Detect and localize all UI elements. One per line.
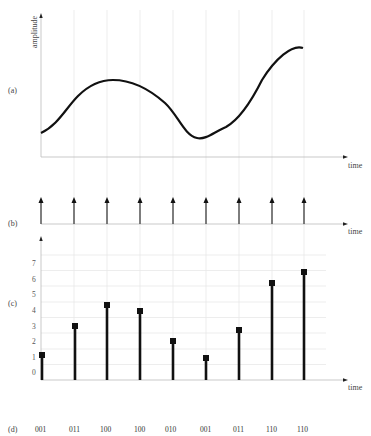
code-4: 010 — [165, 425, 177, 434]
tick-4: 4 — [32, 306, 36, 315]
tick-1: 1 — [32, 353, 36, 362]
panel-a: (a) amplitude time — [8, 13, 363, 170]
binary-codes: 001 011 100 100 010 001 011 110 110 — [35, 425, 308, 434]
tick-7: 7 — [32, 259, 36, 268]
panel-b-label: (b) — [8, 219, 18, 228]
tick-2: 2 — [32, 337, 36, 346]
panel-c: 0 1 2 3 4 5 6 7 — [8, 236, 363, 392]
analog-curve — [41, 47, 303, 138]
b-x-arrow-icon — [343, 222, 348, 225]
signal-sampling-diagram: (a) amplitude time (b) — [0, 0, 371, 436]
code-2: 100 — [100, 425, 112, 434]
a-time-label: time — [348, 161, 363, 170]
panel-d-label: (d) — [8, 425, 18, 434]
a-y-arrow-icon — [39, 13, 42, 18]
panel-d: (d) 001 011 100 100 010 001 011 110 110 — [8, 425, 308, 434]
c-horizontal-grid — [41, 255, 326, 365]
c-time-label: time — [348, 383, 363, 392]
tick-3: 3 — [32, 322, 36, 331]
code-8: 110 — [297, 425, 308, 434]
impulse-stems — [41, 202, 304, 224]
panel-a-label: (a) — [8, 86, 17, 95]
b-time-label: time — [348, 227, 363, 236]
c-x-arrow-icon — [343, 378, 348, 381]
code-6: 011 — [233, 425, 244, 434]
panel-b: (b) time — [8, 197, 363, 236]
c-y-ticks: 0 1 2 3 4 5 6 7 — [32, 259, 36, 377]
vertical-grid — [74, 10, 304, 380]
impulse-arrowheads-icon — [39, 197, 307, 203]
code-1: 011 — [69, 425, 80, 434]
code-0: 001 — [35, 425, 47, 434]
amplitude-label: amplitude — [30, 16, 39, 48]
code-3: 100 — [134, 425, 146, 434]
code-7: 110 — [266, 425, 277, 434]
tick-0: 0 — [32, 368, 36, 377]
c-y-arrow-icon — [39, 236, 42, 241]
a-x-arrow-icon — [343, 155, 348, 158]
code-5: 001 — [200, 425, 212, 434]
panel-c-label: (c) — [8, 299, 17, 308]
tick-5: 5 — [32, 290, 36, 299]
tick-6: 6 — [32, 275, 36, 284]
